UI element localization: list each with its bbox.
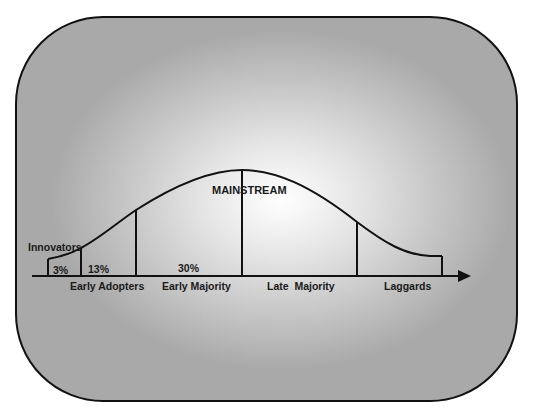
laggards-label: Laggards	[384, 280, 431, 292]
adoption-curve-diagram	[0, 0, 534, 420]
early-adopters-percent: 13%	[88, 263, 109, 275]
early-adopters-label: Early Adopters	[70, 280, 144, 292]
early-majority-label: Early Majority	[162, 280, 231, 292]
innovators-label: Innovators	[28, 241, 82, 253]
late-majority-label: Late Majority	[267, 280, 335, 292]
innovators-percent: 3%	[53, 264, 68, 276]
early-majority-percent: 30%	[178, 262, 199, 274]
x-axis-arrow-icon	[458, 270, 471, 282]
mainstream-title: MAINSTREAM	[212, 184, 287, 196]
